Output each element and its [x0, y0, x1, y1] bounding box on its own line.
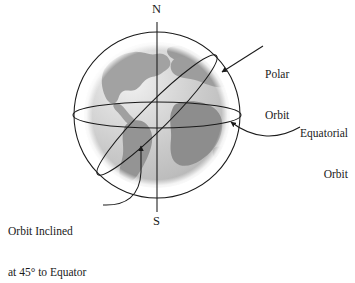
polar-orbit-leader-line [222, 46, 263, 72]
polar-orbit-label-line1: Polar [265, 68, 289, 82]
south-pole-label: S [153, 214, 160, 229]
north-pole-label: N [152, 2, 161, 17]
equatorial-orbit-label-line2: Orbit [248, 168, 348, 182]
equatorial-orbit-label-line1: Equatorial [248, 127, 348, 141]
inclined-orbit-label-line2: at 45° to Equator [8, 266, 86, 280]
inclined-orbit-label-line1: Orbit Inclined [8, 225, 86, 239]
inclined-orbit-label: Orbit Inclined at 45° to Equator [8, 198, 86, 283]
equatorial-orbit-label: Equatorial Orbit [248, 100, 348, 195]
